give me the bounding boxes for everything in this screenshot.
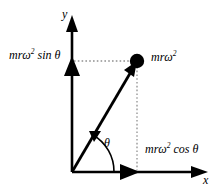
x-component-label-suffix: cos θ xyxy=(171,142,199,156)
resultant-vector-label-exponent: 2 xyxy=(173,49,177,58)
vector-decomposition-figure: y x mrω2 sin θ mrω2 cos θ mrω2 θ xyxy=(0,0,218,193)
diagram-canvas xyxy=(0,0,218,193)
y-component-label-prefix: mrω xyxy=(9,48,31,62)
x-component-label: mrω2 cos θ xyxy=(145,143,198,155)
y-component-arrowhead xyxy=(64,56,80,76)
resultant-vector-label: mrω2 xyxy=(151,51,177,63)
x-component-label-prefix: mrω xyxy=(145,142,167,156)
angle-label: θ xyxy=(104,137,110,149)
y-axis-arrowhead xyxy=(66,15,78,32)
x-axis-label: x xyxy=(203,174,208,186)
point-mass-marker xyxy=(130,54,144,68)
y-component-label-suffix: sin θ xyxy=(35,48,61,62)
y-component-label: mrω2 sin θ xyxy=(9,49,60,61)
resultant-vector-shaft xyxy=(72,70,132,172)
resultant-vector-label-base: mrω xyxy=(151,50,173,64)
y-axis-label: y xyxy=(62,8,67,20)
